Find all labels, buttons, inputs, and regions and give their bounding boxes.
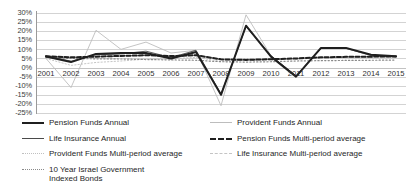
legend-item-life-insurance-annual[interactable]: Life Insurance Annual: [22, 134, 126, 143]
y-axis-tick-0: 0%: [22, 64, 32, 71]
legend-line-dotted-fine: [22, 165, 44, 174]
legend-item-provident-funds-annual[interactable]: Provident Funds Annual: [210, 118, 322, 127]
y-axis-tick-neg5: -5%: [19, 73, 32, 80]
y-axis-tick-25: 25%: [18, 18, 33, 25]
legend-item-label: Life Insurance Multi-period average: [237, 149, 362, 158]
legend-item-life-insurance-multi-period-average[interactable]: Life Insurance Multi-period average: [210, 149, 362, 158]
x-axis-tick-2004: 2004: [113, 70, 130, 78]
y-axis-tick-15: 15%: [18, 36, 33, 43]
chart-legend: Pension Funds AnnualProvident Funds Annu…: [0, 118, 410, 195]
x-axis-tick-2008: 2008: [213, 70, 230, 78]
legend-item-provident-funds-multi-period-average[interactable]: Provident Funds Multi-period average: [22, 149, 182, 158]
legend-item-pension-funds-annual[interactable]: Pension Funds Annual: [22, 118, 129, 127]
x-axis-tick-2003: 2003: [88, 70, 105, 78]
x-axis-tick-labels: 2001200220032004200520062007200820092010…: [36, 0, 406, 120]
legend-item-label: 10 Year Israel GovernmentIndexed Bonds: [49, 165, 144, 184]
x-axis-tick-2012: 2012: [313, 70, 330, 78]
x-axis-tick-2013: 2013: [338, 70, 355, 78]
x-axis-tick-2002: 2002: [63, 70, 80, 78]
y-axis-tick-10: 10%: [18, 46, 33, 53]
legend-item-label: Pension Funds Annual: [49, 118, 129, 127]
y-axis-tick-neg25: -25%: [15, 109, 32, 116]
y-axis-tick-neg20: -20%: [15, 100, 32, 107]
plot-area: 30%25%20%15%10%5%0%-5%-10%-15%-20%-25% 2…: [0, 0, 410, 120]
x-axis-tick-2010: 2010: [263, 70, 280, 78]
legend-line-solid-thin: [22, 134, 44, 143]
legend-item-label: Provident Funds Annual: [237, 118, 322, 127]
legend-item-label: Life Insurance Annual: [49, 134, 126, 143]
x-axis-tick-2011: 2011: [288, 70, 304, 78]
y-axis-tick-30: 30%: [18, 9, 33, 16]
y-axis-tick-labels: 30%25%20%15%10%5%0%-5%-10%-15%-20%-25%: [0, 0, 34, 120]
legend-line-dotted-light: [22, 149, 44, 158]
y-axis-tick-neg10: -10%: [15, 82, 32, 89]
legend-line-solid-thick: [22, 118, 44, 127]
x-axis-tick-2007: 2007: [188, 70, 205, 78]
legend-item-label: Provident Funds Multi-period average: [49, 149, 182, 158]
legend-line-solid-light: [210, 118, 232, 127]
legend-item-10-year-israel-government[interactable]: 10 Year Israel GovernmentIndexed Bonds: [22, 165, 144, 184]
chart-figure: 30%25%20%15%10%5%0%-5%-10%-15%-20%-25% 2…: [0, 0, 410, 195]
y-axis-tick-20: 20%: [18, 27, 33, 34]
legend-item-label-line2: Indexed Bonds: [49, 174, 144, 183]
x-axis-tick-2014: 2014: [363, 70, 380, 78]
legend-item-label: Pension Funds Multi-period average: [237, 134, 366, 143]
x-axis-tick-2006: 2006: [163, 70, 180, 78]
y-axis-tick-5: 5%: [22, 55, 32, 62]
legend-item-pension-funds-multi-period-average[interactable]: Pension Funds Multi-period average: [210, 134, 366, 143]
x-axis-tick-2015: 2015: [388, 70, 405, 78]
x-axis-tick-2009: 2009: [238, 70, 255, 78]
x-axis-tick-2005: 2005: [138, 70, 155, 78]
legend-line-dashed-thick: [210, 134, 232, 143]
legend-line-dashed-light: [210, 149, 232, 158]
y-axis-tick-neg15: -15%: [15, 91, 32, 98]
x-axis-tick-2001: 2001: [38, 70, 55, 78]
